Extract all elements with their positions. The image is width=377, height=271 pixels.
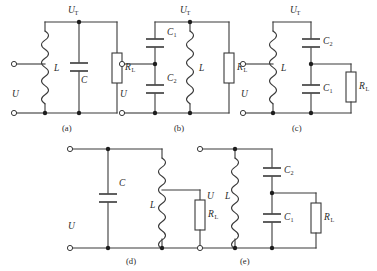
circuit-c: U T U L C 2 C 1 R L (c) (240, 5, 369, 133)
resistor-body-b (224, 53, 234, 83)
label-resistor-d: R (207, 209, 214, 219)
node-bottom-left-b (153, 111, 157, 115)
node-top-center-a (77, 20, 81, 24)
label-c2-sub-e: 2 (291, 169, 294, 176)
circuit-figure: U T U L C R L (a) (0, 0, 377, 271)
label-inductor-c: L (280, 63, 286, 73)
caption-b: (b) (174, 123, 184, 133)
circuit-diagram-canvas: U T U L C R L (a) (0, 0, 377, 271)
caption-d: (d) (126, 256, 136, 266)
inductor-coil-e (232, 158, 239, 249)
label-source-voltage-b: U (120, 89, 128, 99)
node-bottom-left-c (271, 111, 275, 115)
label-resistor-e: R (323, 212, 330, 222)
caption-e: (e) (240, 256, 250, 266)
terminal-bottom-e (197, 245, 202, 250)
label-c1-sub-e: 1 (291, 216, 294, 223)
label-c2-sub-c: 2 (330, 40, 333, 47)
node-divider-tap-e (270, 191, 274, 195)
terminal-bottom-a (11, 110, 16, 115)
terminal-bottom-b (119, 110, 124, 115)
resistor-body-e (311, 203, 321, 233)
inductor-coil-b (187, 31, 194, 104)
label-resistor-sub-d: L (215, 213, 219, 220)
label-resistor-sub-c: L (366, 85, 370, 92)
node-bottom-center-e (233, 246, 237, 250)
label-resistor-c: R (358, 81, 365, 91)
label-tank-voltage-sub-c: T (297, 9, 301, 16)
label-resistor-sub-a: L (132, 66, 136, 73)
label-c2-sub-b: 2 (174, 77, 177, 84)
node-divider-tap-c (309, 62, 313, 66)
inductor-coil-d (159, 158, 166, 249)
label-capacitor-a: C (81, 75, 88, 85)
label-source-voltage-e: U (207, 191, 215, 201)
node-bottom-center-b (188, 111, 192, 115)
resistor-body-d (195, 200, 205, 230)
terminal-bottom-c (240, 110, 245, 115)
terminal-bottom-d (67, 245, 72, 250)
node-bottom-center-d (106, 246, 110, 250)
node-bottom-center-a (77, 111, 81, 115)
label-c1-sub-c: 1 (330, 87, 333, 94)
node-top-center-b (188, 20, 192, 24)
circuit-a: U T U L C R L (a) (11, 5, 135, 133)
terminal-top-a (11, 61, 16, 66)
caption-a: (a) (62, 123, 72, 133)
terminal-top-b (119, 61, 124, 66)
terminal-top-e (197, 146, 202, 151)
node-bottom-left-a (43, 111, 47, 115)
node-bottom-right-d (160, 246, 164, 250)
circuit-b: U T U C 1 C 2 L R L (b) (119, 5, 247, 133)
label-source-voltage-a: U (12, 89, 20, 99)
node-bottom-right-e (270, 246, 274, 250)
label-inductor-b: L (198, 63, 204, 73)
label-tank-voltage-sub-b: T (187, 9, 191, 16)
circuit-d: U C L R L (d) (67, 146, 218, 266)
label-source-voltage-d: U (68, 221, 76, 231)
resistor-body-c (346, 72, 356, 102)
caption-c: (c) (292, 123, 302, 133)
label-c1-sub-b: 1 (174, 31, 177, 38)
node-top-center-d (106, 147, 110, 151)
inductor-coil-c (270, 31, 277, 104)
node-divider-tap-b (153, 62, 157, 66)
circuit-e: U L C 2 C 1 R L (e) (197, 146, 334, 266)
node-top-center-e (233, 147, 237, 151)
label-inductor-d: L (149, 200, 155, 210)
label-tank-voltage-sub-a: T (75, 9, 79, 16)
label-inductor-e: L (224, 191, 230, 201)
terminal-top-c (240, 61, 245, 66)
label-capacitor-d: C (119, 178, 126, 188)
label-resistor-sub-b: L (244, 66, 248, 73)
node-bottom-center-c (309, 111, 313, 115)
inductor-coil-a (42, 31, 49, 104)
label-resistor-sub-e: L (331, 216, 335, 223)
label-inductor-a: L (53, 63, 59, 73)
label-source-voltage-c: U (241, 89, 249, 99)
terminal-top-d (67, 146, 72, 151)
resistor-body-a (112, 53, 122, 83)
